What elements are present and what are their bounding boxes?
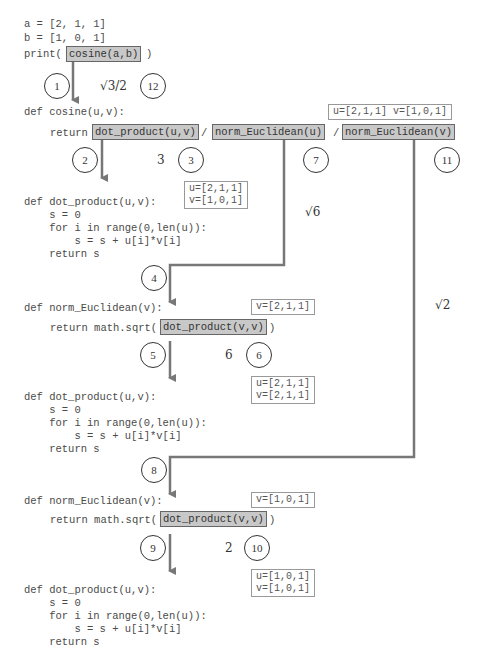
call-norm-euclidean-v[interactable]: norm_Euclidean(v) [342,124,455,140]
def-norm-euclidean-2: def norm_Euclidean(v): [24,495,163,508]
divide-2: / [333,126,339,140]
call-dot-product-vv-1[interactable]: dot_product(v,v) [160,319,267,335]
divide-1: / [201,126,207,140]
norm-v-result-value: √2 [435,298,450,312]
step-9-circle: 9 [140,535,166,561]
step-7-circle: 7 [303,147,329,173]
cosine-result-value: √3/2 [100,79,127,93]
dot-vv-1-result-value: 6 [225,348,233,362]
dot-product-3-code: def dot_product(u,v): s = 0 for i in ran… [24,571,207,649]
step-2-circle: 2 [72,147,98,173]
norm-2-return-prefix: return math.sqrt( [50,513,157,527]
cosine-args-box: u=[2,1,1] v=[1,0,1] [328,104,452,120]
print-prefix: print( [24,47,62,61]
step-5-circle: 5 [140,342,166,368]
var-b-line: b = [1, 0, 1] [24,32,106,45]
dot-uv-result-value: 3 [157,153,165,167]
norm-1-args-box: v=[2,1,1] [251,299,315,315]
call-dot-product-uv[interactable]: dot_product(u,v) [92,124,199,140]
step-4-circle: 4 [141,265,167,291]
norm-1-return-prefix: return math.sqrt( [50,321,157,335]
call-norm-euclidean-u[interactable]: norm_Euclidean(u) [212,124,325,140]
dot-product-2-args-box: u=[2,1,1] v=[2,1,1] [251,376,315,404]
norm-u-result-value: √6 [305,205,320,219]
dot-product-1-code: def dot_product(u,v): s = 0 for i in ran… [24,183,207,261]
var-a-line: a = [2, 1, 1] [24,18,106,31]
dot-product-1-args-box: u=[2,1,1] v=[1,0,1] [184,181,248,209]
step-6-circle: 6 [246,342,272,368]
call-dot-product-vv-2[interactable]: dot_product(v,v) [160,511,267,527]
dot-vv-2-result-value: 2 [225,541,233,555]
print-suffix: ) [146,47,152,61]
step-8-circle: 8 [141,457,167,483]
call-cosine[interactable]: cosine(a,b) [66,46,141,62]
step-1-circle: 1 [44,73,70,99]
cosine-return-kw: return [50,126,88,140]
def-norm-euclidean-1: def norm_Euclidean(v): [24,302,163,315]
def-cosine: def cosine(u,v): [24,106,125,119]
dot-product-2-code: def dot_product(u,v): s = 0 for i in ran… [24,378,207,456]
step-10-circle: 10 [244,535,270,561]
step-3-circle: 3 [178,147,204,173]
norm-2-args-box: v=[1,0,1] [251,492,315,508]
step-12-circle: 12 [140,73,166,99]
norm-1-return-suffix: ) [269,321,275,335]
dot-product-3-args-box: u=[1,0,1] v=[1,0,1] [251,569,315,597]
norm-2-return-suffix: ) [269,513,275,527]
step-11-circle: 11 [434,147,460,173]
